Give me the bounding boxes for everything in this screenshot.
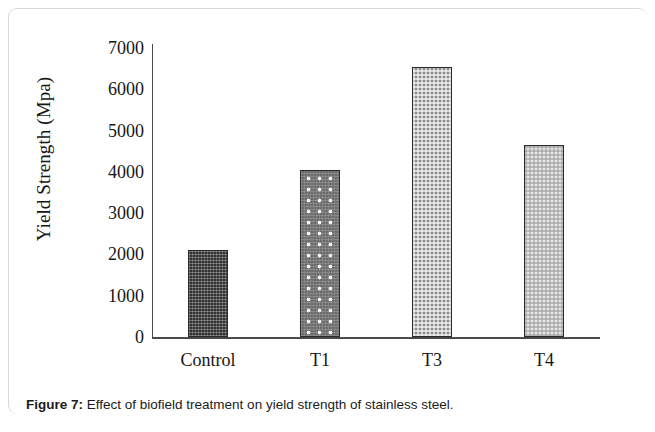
- bar-t3: [412, 67, 452, 337]
- bars-layer: [0, 0, 655, 388]
- x-axis-tick-labels: ControlT1T3T4: [0, 350, 655, 380]
- x-axis-tick-label: T1: [310, 350, 330, 371]
- bar-control: [188, 250, 228, 337]
- figure-caption: Figure 7: Effect of biofield treatment o…: [26, 396, 636, 414]
- bar-t4: [524, 145, 564, 337]
- figure-caption-text: Effect of biofield treatment on yield st…: [87, 397, 454, 412]
- figure-caption-label: Figure 7:: [26, 397, 83, 412]
- bar-t1: [300, 170, 340, 337]
- chart-plot-area: Yield Strength (Mpa) 0100020003000400050…: [0, 0, 655, 388]
- figure-container: Yield Strength (Mpa) 0100020003000400050…: [0, 0, 655, 432]
- x-axis-tick-label: Control: [180, 350, 235, 371]
- x-axis-tick-label: T4: [534, 350, 554, 371]
- x-axis-tick-label: T3: [422, 350, 442, 371]
